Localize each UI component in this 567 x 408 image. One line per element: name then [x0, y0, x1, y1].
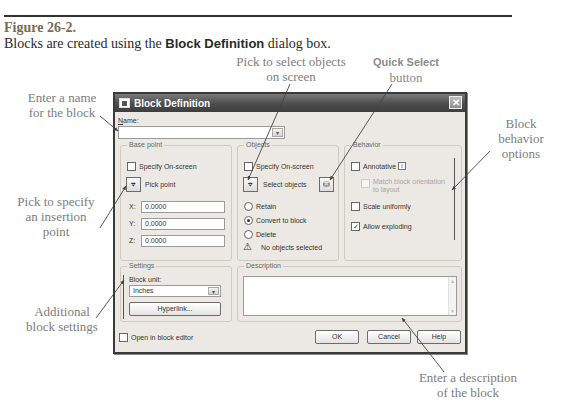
callout-description: Enter a description of the block — [398, 370, 538, 400]
help-button[interactable]: Help — [417, 330, 461, 344]
delete-radio[interactable] — [244, 230, 253, 239]
group-title: Objects — [244, 141, 272, 148]
name-combobox[interactable]: ▾ — [118, 126, 285, 139]
quick-select-button[interactable]: ⛁ — [319, 177, 334, 192]
delete-label: Delete — [256, 231, 276, 238]
app-icon — [119, 98, 130, 108]
ok-button[interactable]: OK — [315, 330, 359, 344]
retain-radio[interactable] — [244, 202, 253, 211]
retain-label: Retain — [256, 203, 276, 210]
figure-number: Figure 26-2. — [4, 20, 76, 36]
callout-line: for the block — [16, 105, 108, 120]
convert-to-block-label: Convert to block — [256, 217, 307, 224]
callout-line: options — [486, 146, 556, 161]
callout-settings: Additional block settings — [16, 304, 108, 334]
info-icon[interactable]: i — [398, 162, 406, 170]
callout-quick-select: Quick Select button — [366, 55, 446, 85]
callout-name: Enter a name for the block — [16, 90, 108, 120]
caption-text-end: dialog box. — [264, 36, 331, 51]
allow-exploding-label: Allow exploding — [363, 223, 412, 230]
convert-to-block-radio[interactable] — [244, 216, 253, 225]
callout-line: block settings — [16, 319, 108, 334]
callout-select-objects: Pick to select objects on screen — [216, 54, 366, 84]
group-title: Settings — [127, 262, 156, 269]
y-label: Y: — [129, 220, 135, 227]
open-in-block-editor-label: Open in block editor — [131, 334, 193, 341]
callout-line: Enter a name — [16, 90, 108, 105]
description-group: Description — [237, 266, 462, 322]
callout-line: an insertion — [4, 209, 108, 224]
close-button[interactable]: ✕ — [449, 96, 462, 109]
select-objects-label: Select objects — [263, 181, 307, 188]
open-in-block-editor-checkbox[interactable] — [119, 333, 128, 342]
allow-exploding-checkbox[interactable]: ✓ — [351, 222, 360, 231]
specify-on-screen-checkbox[interactable] — [127, 162, 136, 171]
callout-line: on screen — [216, 69, 366, 84]
scale-uniformly-checkbox[interactable] — [351, 202, 360, 211]
annotative-checkbox[interactable] — [351, 162, 360, 171]
description-textarea[interactable] — [243, 276, 457, 316]
objects-specify-on-screen-label: Specify On-screen — [256, 163, 314, 170]
block-unit-value: Inches — [133, 287, 154, 294]
settings-bracket-line — [123, 275, 124, 319]
selection-status: No objects selected — [261, 244, 322, 251]
figure-caption: Blocks are created using the Block Defin… — [4, 36, 331, 52]
callout-line: of the block — [398, 385, 538, 400]
x-coordinate-input[interactable]: 0.0000 — [141, 201, 225, 213]
behavior-bracket-line — [454, 158, 455, 240]
group-title: Base point — [127, 141, 164, 148]
pick-point-button[interactable]: ⌖ — [126, 177, 141, 192]
caption-text: Blocks are created using the — [4, 36, 165, 51]
block-definition-dialog: Block Definition ✕ Name: ▾ Base point Sp… — [113, 92, 467, 354]
objects-group: Objects Specify On-screen ⌖ Select objec… — [237, 145, 339, 261]
caption-bold: Block Definition — [165, 36, 264, 51]
settings-group: Settings Block unit: Inches ▾ Hyperlink.… — [120, 266, 232, 322]
description-scrollbar[interactable] — [448, 277, 456, 315]
title-bar[interactable]: Block Definition ✕ — [115, 94, 465, 112]
group-title: Behavior — [351, 141, 383, 148]
hyperlink-button[interactable]: Hyperlink... — [129, 302, 221, 316]
pick-point-label: Pick point — [145, 181, 175, 188]
block-unit-label: Block unit: — [129, 276, 161, 283]
cancel-button[interactable]: Cancel — [367, 330, 411, 344]
callout-line: Enter a description — [398, 370, 538, 385]
chevron-down-icon[interactable]: ▾ — [208, 287, 219, 295]
callout-behavior: Block behavior options — [486, 116, 556, 161]
callout-line: Pick to select objects — [216, 54, 366, 69]
select-objects-button[interactable]: ⌖ — [243, 177, 258, 192]
callout-line: Quick Select — [366, 55, 446, 70]
label-line: to layout — [373, 186, 445, 194]
chevron-down-icon[interactable]: ▾ — [272, 128, 283, 137]
warning-icon: ⚠ — [243, 242, 252, 252]
callout-line: Pick to specify — [4, 194, 108, 209]
callout-pick-point: Pick to specify an insertion point — [4, 194, 108, 239]
dialog-title: Block Definition — [134, 98, 210, 109]
x-label: X: — [129, 203, 136, 210]
y-coordinate-input[interactable]: 0.0000 — [141, 218, 225, 230]
label-line: Match block orientation — [373, 178, 445, 186]
block-unit-select[interactable]: Inches ▾ — [129, 285, 221, 297]
annotative-label: Annotative — [363, 163, 396, 170]
callout-line: button — [366, 70, 446, 85]
specify-on-screen-label: Specify On-screen — [139, 163, 197, 170]
callout-line: behavior — [486, 131, 556, 146]
z-coordinate-input[interactable]: 0.0000 — [141, 235, 225, 247]
z-label: Z: — [129, 237, 135, 244]
scale-uniformly-label: Scale uniformly — [363, 203, 411, 210]
base-point-group: Base point Specify On-screen ⌖ Pick poin… — [120, 145, 232, 261]
callout-line: Block — [486, 116, 556, 131]
name-label: Name: — [118, 117, 139, 124]
behavior-group: Behavior Annotative i Match block orient… — [344, 145, 462, 261]
callout-line: point — [4, 224, 108, 239]
objects-specify-on-screen-checkbox[interactable] — [244, 162, 253, 171]
match-orientation-label: Match block orientation to layout — [373, 178, 445, 194]
group-title: Description — [244, 262, 283, 269]
top-rule — [4, 15, 512, 17]
match-orientation-checkbox[interactable] — [361, 179, 370, 188]
callout-line: Additional — [16, 304, 108, 319]
